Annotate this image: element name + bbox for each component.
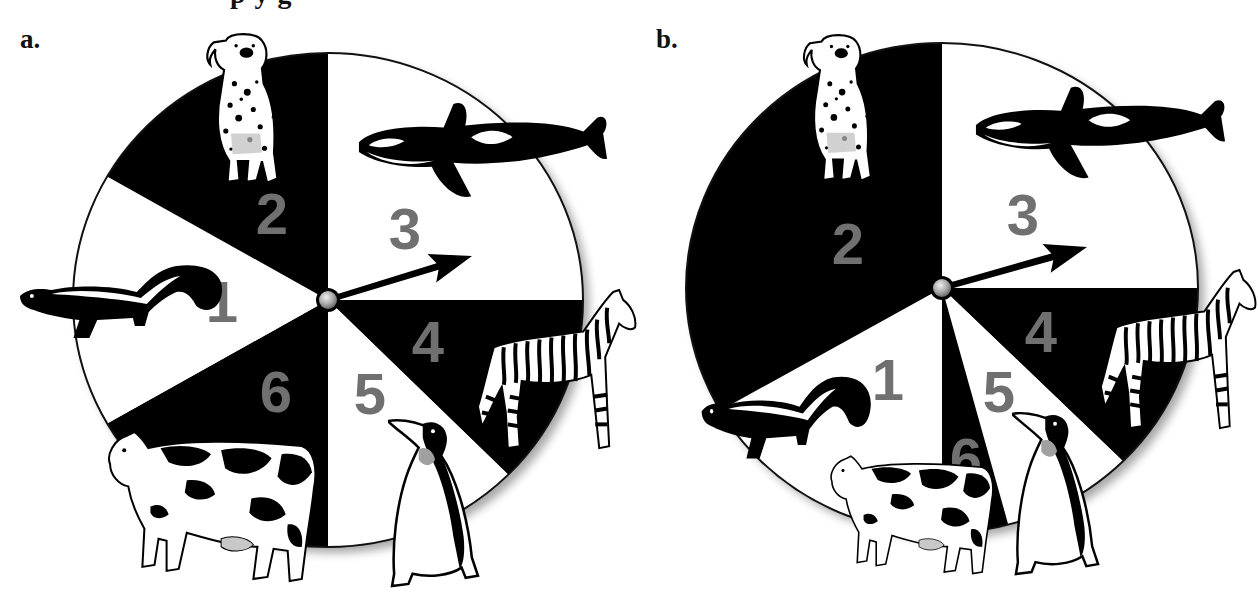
sector-number-4: 4 — [1025, 299, 1057, 364]
sector-number-6: 6 — [260, 359, 292, 424]
sector-number-4: 4 — [412, 309, 444, 374]
hub-pin-icon — [319, 291, 337, 309]
spinner-a: 123456 — [20, 34, 635, 586]
figure: p y g a. b. — [0, 0, 1258, 616]
sector-number-2: 2 — [832, 211, 864, 276]
sector-number-3: 3 — [1007, 182, 1039, 247]
cow-icon — [831, 456, 993, 573]
sector-number-5: 5 — [354, 361, 386, 426]
sector-number-3: 3 — [389, 196, 421, 261]
sector-number-1: 1 — [872, 347, 904, 412]
hub-pin-icon — [933, 279, 951, 297]
cow-icon — [109, 432, 315, 581]
spinner-diagram: 123456123456 — [0, 0, 1258, 616]
sector-number-5: 5 — [983, 359, 1015, 424]
spinner-b: 123456 — [686, 35, 1255, 574]
sector-number-2: 2 — [256, 181, 288, 246]
